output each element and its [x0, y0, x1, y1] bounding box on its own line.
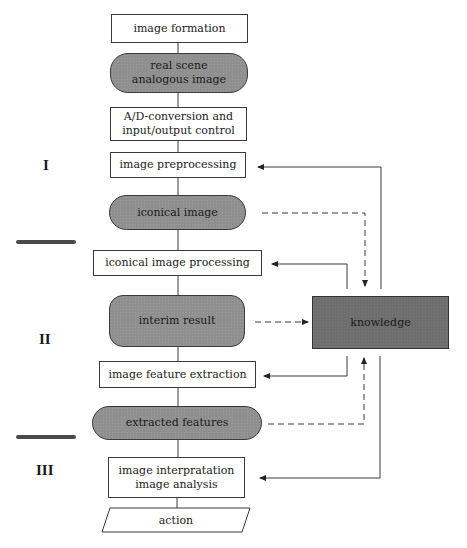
node-iconical-processing: iconical image processing	[93, 250, 262, 276]
node-iconical-image: iconical image	[109, 195, 246, 230]
node-image-formation: image formation	[111, 14, 248, 43]
arrow-knowledge-to-iconical-processing	[272, 264, 347, 289]
node-preprocessing: image preprocessing	[110, 152, 246, 178]
stage-label-i: I	[43, 157, 49, 174]
arrow-iconical-to-knowledge	[262, 213, 365, 286]
stage-label-ii: II	[39, 331, 51, 348]
arrow-knowledge-to-preprocessing	[258, 167, 381, 289]
arrow-extracted-to-knowledge	[268, 358, 364, 424]
node-knowledge: knowledge	[312, 296, 449, 349]
node-ad-conversion: A/D-conversion and input/output control	[110, 107, 247, 141]
node-interpretation: image interpratation image analysis	[108, 457, 245, 498]
node-action: action	[102, 508, 250, 532]
stage-label-iii: III	[36, 462, 54, 479]
arrow-knowledge-to-feature-extraction	[264, 356, 347, 376]
node-real-scene: real scene analogous image	[110, 53, 248, 93]
stage-divider	[16, 435, 76, 439]
node-extracted-features: extracted features	[92, 406, 262, 440]
node-interim-result: interim result	[109, 295, 245, 347]
arrow-knowledge-to-interpretation	[260, 356, 380, 478]
stage-divider	[16, 240, 76, 244]
node-feature-extraction: image feature extraction	[99, 361, 256, 388]
